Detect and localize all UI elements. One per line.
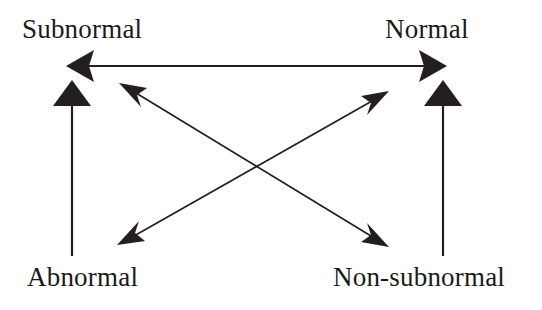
edge-right-vertical bbox=[424, 80, 462, 256]
node-label-subnormal: Subnormal bbox=[22, 16, 142, 43]
edge-top-horizontal bbox=[66, 50, 447, 82]
arrowhead-right-vertical-up-icon bbox=[424, 80, 462, 106]
arrowhead-diagonal-up-right-icon bbox=[361, 91, 389, 115]
diagram-canvas: Subnormal Normal Abnormal Non-subnormal bbox=[0, 0, 542, 310]
arrowhead-left-vertical-up-icon bbox=[53, 80, 91, 106]
edge-left-vertical bbox=[53, 80, 91, 256]
node-label-non-subnormal: Non-subnormal bbox=[333, 264, 505, 291]
arrowhead-diagonal-down-right-icon bbox=[361, 223, 389, 247]
node-label-normal: Normal bbox=[385, 16, 469, 43]
node-label-abnormal: Abnormal bbox=[27, 264, 138, 291]
arrowhead-diagonal-up-left-icon bbox=[119, 83, 147, 107]
